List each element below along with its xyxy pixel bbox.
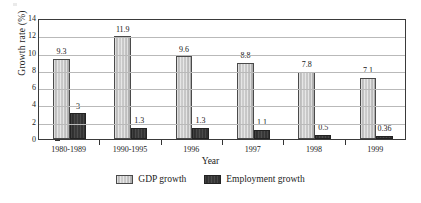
y-tick-label: 6 — [22, 84, 36, 92]
bar-gdp-growth — [237, 63, 254, 139]
y-axis-tick-labels: 02468101214 — [22, 19, 36, 140]
bar-gdp-growth — [53, 59, 70, 139]
bar-gdp-growth — [176, 56, 193, 139]
bar-chart-figure: Growth rate (%) 02468101214 9.3311.91.39… — [0, 0, 421, 203]
legend-swatch-gdp-growth — [116, 175, 133, 184]
bar-employment-growth — [70, 113, 87, 139]
bar-value-label: 9.6 — [170, 46, 199, 54]
chart-legend: GDP growth Employment growth — [0, 172, 421, 186]
y-tick-label: 0 — [22, 136, 36, 144]
y-tick-label: 12 — [22, 32, 36, 40]
gridline — [39, 89, 405, 90]
bar-value-label: 7.8 — [292, 61, 321, 69]
plot-area: 9.3311.91.39.61.38.81.17.80.57.10.36 — [38, 19, 406, 140]
y-tick-label: 14 — [22, 15, 36, 23]
bar-employment-growth — [315, 135, 332, 139]
x-tick-label: 1999 — [367, 145, 383, 154]
bar-employment-growth — [131, 128, 148, 139]
x-tick-label: 1980-1989 — [51, 145, 86, 154]
legend-label-gdp-growth: GDP growth — [138, 174, 186, 184]
legend-label-employment-growth: Employment growth — [226, 174, 304, 184]
bar-employment-growth — [192, 128, 209, 139]
y-tick-label: 10 — [22, 50, 36, 58]
x-tick-label: 1997 — [245, 145, 261, 154]
x-tick-label: 1998 — [306, 145, 322, 154]
y-tick-label: 2 — [22, 119, 36, 127]
y-tick-label: 4 — [22, 101, 36, 109]
x-axis-title: Year — [0, 156, 421, 166]
bar-value-label: 0.5 — [309, 124, 338, 132]
bar-value-label: 11.9 — [108, 26, 137, 34]
bar-employment-growth — [376, 136, 393, 139]
legend-swatch-employment-growth — [204, 175, 221, 184]
bar-value-label: 0.36 — [370, 125, 399, 133]
gridline — [39, 55, 405, 56]
legend-item-gdp-growth: GDP growth — [116, 174, 186, 184]
gridline — [39, 106, 405, 107]
bar-employment-growth — [254, 130, 271, 140]
x-tick-label: 1990-1995 — [113, 145, 148, 154]
x-tick-label: 1996 — [183, 145, 199, 154]
y-tick-label: 8 — [22, 67, 36, 75]
gridline — [39, 72, 405, 73]
gridline — [39, 124, 405, 125]
gridline — [39, 37, 405, 38]
legend-item-employment-growth: Employment growth — [204, 174, 304, 184]
